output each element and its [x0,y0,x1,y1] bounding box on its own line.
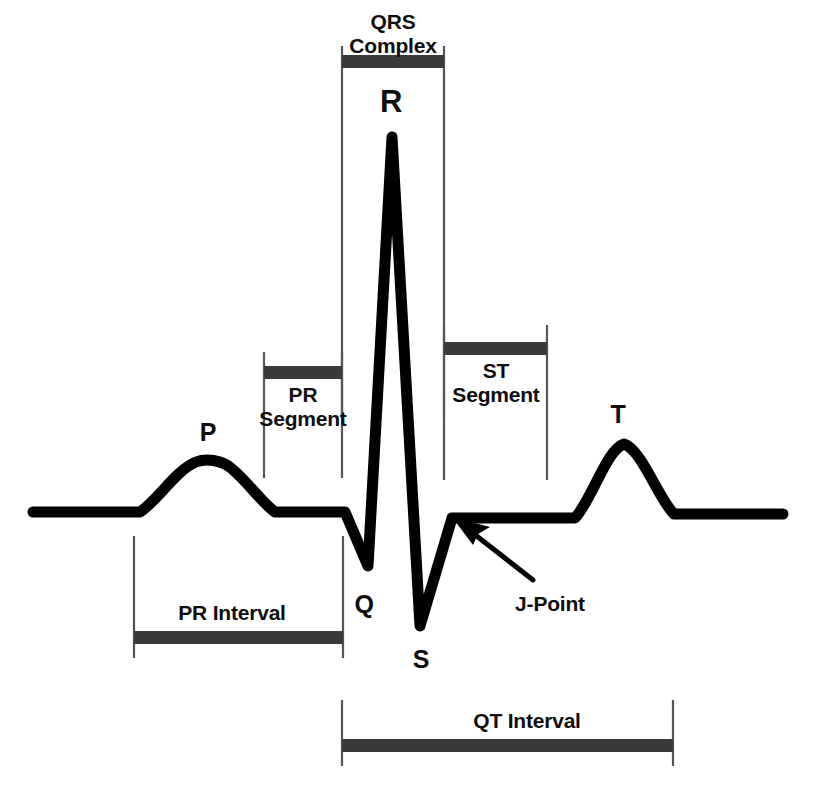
qt-interval-bar [342,739,673,752]
j-point-arrow [452,517,533,580]
st-segment-label-line2: Segment [452,383,539,407]
r-wave-label: R [380,85,402,120]
pr-interval-label: PR Interval [178,601,286,625]
ecg-trace [33,137,783,626]
pr-segment-label-line2: Segment [259,407,346,431]
j-point-label: J-Point [515,592,585,616]
p-wave-label: P [200,418,216,446]
ecg-trace-path [33,137,783,626]
qrs-complex-bracket-label: QRS Complex [349,10,436,57]
ecg-svg-canvas [0,0,815,803]
qrs-complex-label-line2: Complex [349,34,436,58]
t-wave-label: T [610,400,625,428]
qt-interval-label: QT Interval [473,709,581,733]
pr-segment-bar [264,366,342,379]
qrs-complex-label-line1: QRS [349,10,436,34]
st-segment-bracket-label: ST Segment [452,359,539,406]
pr-segment-label-line1: PR [259,383,346,407]
ecg-diagram: QRS Complex R PR Segment ST Segment P T … [0,0,815,803]
st-segment-label-line1: ST [452,359,539,383]
s-wave-label: S [413,645,429,673]
pr-segment-bracket-label: PR Segment [259,383,346,430]
st-segment-bar [444,342,547,355]
pr-interval-bar [134,631,343,644]
q-wave-label: Q [354,590,373,618]
